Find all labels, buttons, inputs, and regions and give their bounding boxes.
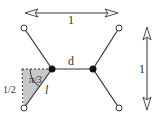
interior-node-left [49,66,56,73]
width-label: 1 [68,13,74,27]
edge-lower-right [93,69,119,108]
terminal-node-lower-left [21,105,27,111]
graph-diagram: 1 1 d π/3 1/2 l [0,0,163,121]
edge-upper-right [93,28,119,69]
interior-node-right [90,66,97,73]
edge-upper-left [24,28,52,69]
terminal-node-lower-right [116,105,122,111]
half-length-label: 1/2 [3,84,16,95]
terminal-node-upper-right [116,25,122,31]
angle-label: π/3 [29,74,42,85]
edge-length-label: l [45,83,49,97]
height-label: 1 [139,62,145,76]
terminal-node-upper-left [21,25,27,31]
edge-d-label: d [68,54,74,68]
